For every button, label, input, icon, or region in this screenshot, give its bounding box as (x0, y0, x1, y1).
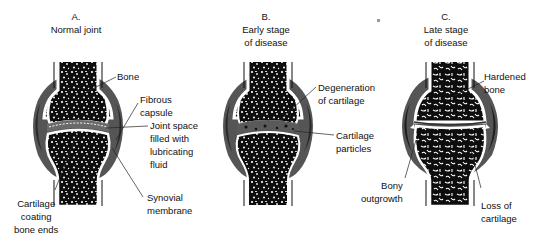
label-joint-space: Joint space filled with lubricating flui… (150, 119, 198, 171)
label-hardened-bone: Hardened bone (484, 70, 526, 96)
panel-b-joint (223, 62, 313, 206)
label-bony-outgrowth: Bony outgrowth (361, 179, 403, 205)
label-cartilage-coating: Cartilage coating bone ends (14, 197, 58, 236)
panel-a-joint (33, 62, 123, 206)
joint-illustrations (0, 0, 542, 241)
label-synovial-membrane: Synovial membrane (147, 191, 192, 217)
label-loss-of-cartilage: Loss of cartilage (481, 199, 517, 225)
label-bone: Bone (117, 70, 139, 83)
label-cartilage-particles: Cartilage particles (336, 129, 374, 155)
label-degeneration-of-cartilage: Degeneration of cartilage (318, 81, 375, 107)
label-fibrous-capsule: Fibrous capsule (140, 93, 173, 119)
